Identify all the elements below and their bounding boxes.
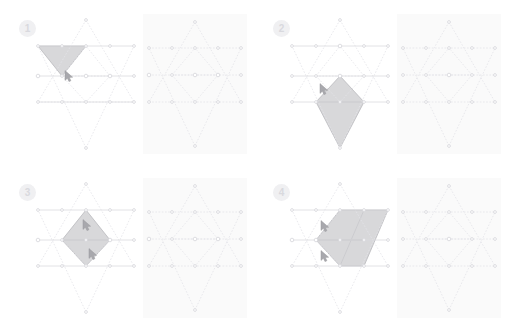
star-grid-svg (397, 178, 501, 318)
grid-nodes (402, 185, 497, 312)
star-grid-svg (284, 14, 396, 154)
step-panel-3: 3 (0, 164, 253, 327)
step-panel-2: 2 (254, 0, 507, 163)
star-grid-svg (143, 14, 247, 154)
selected-shape-group[interactable] (316, 210, 388, 266)
selected-shape-group[interactable] (62, 210, 110, 266)
step-panel-4: 4 (254, 164, 507, 327)
star-grid-svg (143, 178, 247, 318)
star-grid-svg (284, 178, 396, 318)
grid-nodes (147, 21, 242, 148)
star-grid-reference-2 (397, 14, 501, 154)
star-grid-reference-1 (143, 14, 247, 154)
star-grid-working-4[interactable] (284, 178, 396, 318)
star-grid-working-3[interactable] (30, 178, 142, 318)
grid-dashed-lines (38, 20, 134, 148)
star-grid-svg (397, 14, 501, 154)
grid-nodes (402, 21, 497, 148)
grid-dashed-lines (403, 186, 495, 310)
grid-nodes (147, 185, 242, 312)
star-grid-reference-3 (143, 178, 247, 318)
star-grid-svg (30, 14, 142, 154)
grid-dashed-lines (149, 22, 241, 146)
star-grid-working-2[interactable] (284, 14, 396, 154)
star-grid-svg (30, 178, 142, 318)
grid-nodes (36, 19, 135, 150)
step-panel-1: 1 (0, 0, 253, 163)
screenshot-canvas: 1 (0, 0, 507, 327)
grid-dashed-lines (149, 186, 241, 310)
selected-rhombus[interactable] (62, 210, 110, 266)
grid-dashed-lines (403, 22, 495, 146)
star-grid-reference-4 (397, 178, 501, 318)
star-grid-working-1[interactable] (30, 14, 142, 154)
